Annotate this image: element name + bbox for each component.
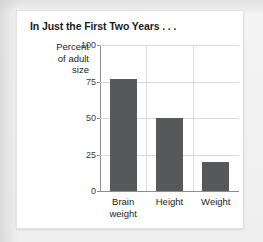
x-axis-category-label-line-1: Height: [146, 196, 192, 208]
x-axis-category-label: Weight: [193, 196, 239, 208]
y-axis-title-line-1: Percent: [19, 41, 89, 53]
y-axis-title-line-2: of adult: [19, 53, 89, 65]
chart-card: In Just the First Two Years . . . Percen…: [16, 10, 244, 229]
x-axis-category-label-line-2: weight: [100, 208, 146, 220]
x-axis-category-label-line-1: Brain: [100, 196, 146, 208]
bar-2: [156, 118, 183, 191]
x-axis-category-label: Height: [146, 196, 192, 208]
y-axis-tick-label: 100: [81, 40, 96, 50]
x-axis-category-label: Brainweight: [100, 196, 146, 219]
y-axis-title: Percent of adult size: [19, 41, 89, 76]
y-axis-tick-label: 75: [86, 77, 96, 87]
y-axis-tick-mark: [97, 155, 100, 156]
x-axis-line: [100, 191, 239, 192]
plot-wrapper: 1007550250BrainweightHeightWeight: [100, 45, 239, 191]
gridline-vertical: [193, 45, 194, 191]
x-axis-category-label-line-1: Weight: [193, 196, 239, 208]
y-axis-tick-mark: [97, 191, 100, 192]
bar-3: [202, 162, 229, 191]
y-axis-tick-mark: [97, 82, 100, 83]
y-axis-tick-label: 25: [86, 150, 96, 160]
gridline-horizontal: [100, 45, 239, 46]
figure-root: In Just the First Two Years . . . Percen…: [0, 0, 263, 242]
gridline-vertical: [146, 45, 147, 191]
y-axis-tick-label: 0: [91, 186, 96, 196]
y-axis-title-line-3: size: [19, 64, 89, 76]
chart-title: In Just the First Two Years . . .: [30, 20, 176, 32]
y-axis-tick-label: 50: [86, 113, 96, 123]
y-axis-tick-mark: [97, 45, 100, 46]
plot-area: 1007550250BrainweightHeightWeight: [100, 45, 239, 191]
bar-1: [110, 79, 137, 191]
y-axis-tick-mark: [97, 118, 100, 119]
